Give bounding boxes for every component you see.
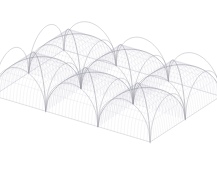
figure-background bbox=[0, 0, 217, 193]
groin-vault-wireframe bbox=[0, 0, 217, 193]
figure-canvas bbox=[0, 0, 217, 193]
